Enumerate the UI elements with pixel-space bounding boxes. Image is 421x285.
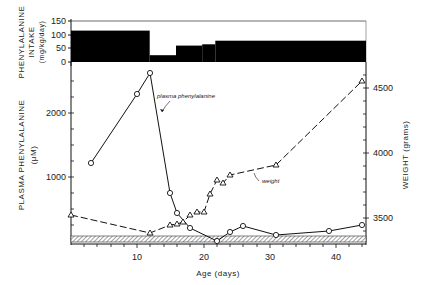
intake-tick-100: 100 (51, 30, 66, 40)
x-ticks (84, 244, 362, 248)
svg-text:plasma phenylalanine: plasma phenylalanine (156, 93, 216, 99)
svg-text:PHENYLALANINE: PHENYLALANINE (17, 6, 26, 79)
svg-text:(μM): (μM) (29, 146, 38, 165)
series-weight (68, 78, 365, 235)
svg-text:(mg/kg/day): (mg/kg/day) (38, 21, 46, 63)
intake-step-bars (71, 31, 366, 62)
intake-bar-22-end (215, 41, 366, 62)
weight-tick-3500: 3500 (373, 213, 393, 223)
weight-y-label: WEIGHT (grams) (401, 121, 410, 190)
svg-text:INTAKE: INTAKE (27, 26, 36, 57)
intake-bar-20-22 (202, 44, 215, 62)
svg-text:WEIGHT (grams): WEIGHT (grams) (401, 121, 410, 190)
intake-bar-0-12 (71, 31, 150, 62)
intake-tick-0: 0 (61, 57, 66, 67)
intake-panel: 150 100 50 0 PHENYLALANINE INTAKE (mg/kg… (17, 6, 366, 79)
svg-text:weight: weight (262, 178, 280, 184)
intake-tick-50: 50 (56, 43, 66, 53)
plasma-tick-2000: 2000 (46, 108, 66, 118)
x-axis-label: Age (days) (196, 269, 240, 278)
intake-y-label: PHENYLALANINE INTAKE (mg/kg/day) (17, 6, 46, 79)
x-tick-30: 30 (265, 252, 275, 262)
weight-tick-4500: 4500 (373, 83, 393, 93)
plasma-y-label: PLASMA PHENYLALANINE (μM) (17, 100, 38, 210)
intake-tick-150: 150 (51, 16, 66, 26)
intake-bar-12-16 (150, 55, 176, 62)
x-tick-20: 20 (199, 252, 209, 262)
plasma-tick-1000: 1000 (46, 172, 66, 182)
annotation-weight: weight (254, 173, 280, 184)
series-plasma-phenylalanine (88, 70, 364, 243)
svg-text:PLASMA PHENYLALANINE: PLASMA PHENYLALANINE (17, 100, 26, 210)
x-tick-10: 10 (132, 252, 142, 262)
annotation-plasma-phenylalanine: plasma phenylalanine (156, 93, 216, 112)
chart-canvas: 150 100 50 0 PHENYLALANINE INTAKE (mg/kg… (0, 0, 421, 285)
weight-tick-4000: 4000 (373, 148, 393, 158)
intake-bar-16-20 (176, 46, 202, 62)
main-panel: 2000 1000 4500 4000 3500 (17, 62, 410, 278)
x-tick-40: 40 (331, 252, 341, 262)
intake-y-ticks: 150 100 50 0 (51, 16, 71, 67)
